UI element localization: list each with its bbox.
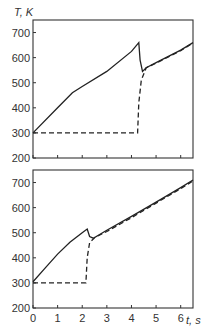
y-tick-label: 200 [12, 302, 30, 314]
y-axis-title: T, K [14, 6, 34, 18]
y-tick-label: 500 [12, 77, 30, 89]
y-tick-label: 700 [12, 27, 30, 39]
x-tick-label: 2 [79, 312, 85, 324]
x-tick-label: 0 [30, 312, 36, 324]
y-tick-label: 500 [12, 227, 30, 239]
bottom-dashed-line [33, 181, 193, 283]
y-tick-label: 600 [12, 52, 30, 64]
bottom-y-axis-ticks: 200300400500600700 [12, 177, 36, 314]
y-tick-label: 600 [12, 202, 30, 214]
top-panel: 200300400500600700 T, K [12, 6, 193, 164]
top-plot-frame [33, 20, 193, 158]
x-tick-label: 1 [55, 312, 61, 324]
bottom-plot-frame [33, 170, 193, 308]
x-axis-title: t, s [186, 314, 201, 326]
x-tick-label: 5 [153, 312, 159, 324]
y-tick-label: 200 [12, 152, 30, 164]
y-tick-label: 300 [12, 127, 30, 139]
y-tick-label: 300 [12, 277, 30, 289]
y-tick-label: 400 [12, 252, 30, 264]
x-tick-label: 4 [128, 312, 134, 324]
y-tick-label: 700 [12, 177, 30, 189]
x-tick-label: 3 [104, 312, 110, 324]
x-tick-label: 6 [178, 312, 184, 324]
bottom-panel: 200300400500600700 0123456 t, s [12, 170, 202, 326]
top-dashed-line [33, 43, 193, 133]
top-y-axis-ticks: 200300400500600700 [12, 27, 36, 164]
y-tick-label: 400 [12, 102, 30, 114]
chart-canvas: 200300400500600700 T, K 2003004005006007… [0, 0, 210, 331]
